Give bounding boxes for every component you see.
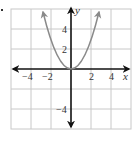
- y-tick-4: 4: [62, 24, 67, 35]
- y-tick-neg4: −4: [56, 104, 67, 115]
- y-axis-label: y: [74, 4, 80, 16]
- x-tick-neg4: −4: [22, 71, 33, 82]
- x-axis-label: x: [122, 70, 128, 82]
- y-tick-2: 2: [62, 44, 67, 55]
- x-tick-neg2: −2: [42, 71, 53, 82]
- x-tick-4: 4: [109, 71, 114, 82]
- x-tick-2: 2: [89, 71, 94, 82]
- coordinate-plane: y x −4 −2 2 4 4 2 −4: [0, 0, 134, 141]
